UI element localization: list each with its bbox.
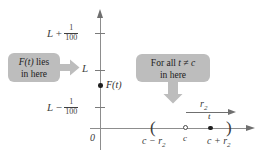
callout-f-of-t-lies-in-here: F(t) lies in here: [8, 53, 60, 82]
callout-left-arrow-icon: [58, 59, 80, 76]
y-label-upper-operator: +: [56, 27, 62, 39]
callout-right-arrow-icon: [163, 80, 183, 104]
radius-measure-line: [186, 112, 229, 113]
y-label-upper-bound: L + 1 100: [47, 24, 78, 43]
callout-right-prefix: For all: [151, 58, 178, 68]
x-label-left-endpoint-subscript: 2: [162, 141, 166, 149]
callout-right-math: t ≠ c: [178, 58, 195, 68]
callout-left-line1-text: lies: [34, 57, 50, 67]
limit-definition-diagram: L + 1 100 L L − 1 100 F(t) 0 ( ) t c − r…: [0, 0, 259, 154]
y-axis-arrowhead-icon: [97, 9, 103, 18]
f-of-t-point-marker: [98, 83, 103, 88]
y-label-lower-numerator: 1: [68, 98, 74, 106]
y-tick-limit: [95, 70, 105, 71]
x-label-right-endpoint: c + r2: [207, 135, 231, 149]
y-tick-upper-bound: [95, 33, 105, 34]
y-label-upper-numerator: 1: [68, 24, 74, 32]
y-label-upper-fraction: 1 100: [64, 24, 78, 43]
callout-left-line2: in here: [13, 69, 55, 81]
radius-measure-arrowhead-icon: [228, 109, 236, 115]
y-label-limit-lead: L: [82, 62, 88, 74]
y-label-lower-denominator: 100: [64, 108, 78, 116]
y-label-upper-lead: L: [47, 27, 53, 39]
x-label-center: c: [183, 133, 187, 143]
interval-open-paren: (: [150, 119, 156, 136]
radius-measure-label-subscript: 2: [204, 104, 208, 112]
x-label-left-endpoint: c − r2: [142, 135, 166, 149]
y-label-lower-fraction: 1 100: [64, 98, 78, 117]
callout-left-math: F(t): [19, 57, 34, 67]
radius-measure-label: r2: [200, 98, 207, 112]
x-label-left-endpoint-text: c − r: [142, 135, 162, 146]
x-axis-line: [90, 128, 248, 129]
t-point-marker: [208, 126, 213, 131]
x-label-right-endpoint-text: c + r: [207, 135, 227, 146]
y-label-lower-operator: −: [56, 101, 62, 113]
y-label-limit: L: [82, 62, 91, 74]
f-of-t-point-label: F(t): [106, 79, 122, 90]
c-point-open-circle: [183, 125, 188, 130]
callout-for-all-t-not-equal-c: For all t ≠ c in here: [136, 54, 210, 82]
x-label-right-endpoint-subscript: 2: [227, 141, 231, 149]
y-tick-lower-bound: [95, 107, 105, 108]
callout-left-line1: F(t) lies: [13, 57, 55, 69]
y-label-lower-bound: L − 1 100: [47, 98, 78, 117]
x-axis-arrowhead-icon: [246, 125, 255, 131]
y-label-lower-lead: L: [47, 101, 53, 113]
origin-label: 0: [90, 132, 95, 143]
callout-right-line1: For all t ≠ c: [141, 58, 205, 70]
interval-close-paren: ): [226, 119, 232, 136]
y-label-upper-denominator: 100: [64, 34, 78, 42]
